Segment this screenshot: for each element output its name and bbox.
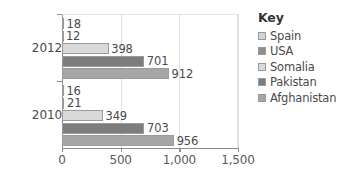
legend-title: Key <box>258 10 356 25</box>
legend-item-label: Spain <box>270 29 301 43</box>
x-axis-tick <box>62 148 63 152</box>
bar-value-label: 349 <box>105 111 127 122</box>
bar <box>62 110 103 121</box>
legend-swatch-icon <box>258 63 266 71</box>
x-axis-tick <box>238 148 239 152</box>
x-axis-tick-label: 0 <box>58 153 65 167</box>
x-axis-tick-label: 1,500 <box>221 153 254 167</box>
bar <box>62 123 144 134</box>
legend-swatch-icon <box>258 47 266 55</box>
bar <box>62 43 109 54</box>
x-axis-tick-label: 1,000 <box>163 153 196 167</box>
bar-value-label: 21 <box>67 98 81 109</box>
bar-value-label: 12 <box>66 31 80 42</box>
gridline <box>238 14 239 148</box>
bar-value-label: 703 <box>147 123 169 134</box>
bar-value-label: 912 <box>172 69 194 80</box>
bar <box>62 135 174 146</box>
y-axis-category-label: 2012 <box>32 41 62 55</box>
bar-value-label: 16 <box>66 86 80 97</box>
legend-item[interactable]: USA <box>258 45 356 58</box>
legend-item[interactable]: Spain <box>258 29 356 42</box>
bar-value-label: 18 <box>67 19 81 30</box>
legend-item[interactable]: Somalia <box>258 60 356 73</box>
legend-item-label: Afghanistan <box>270 91 336 105</box>
bar <box>62 18 64 29</box>
legend-item-label: Pakistan <box>270 75 317 89</box>
bar <box>62 98 64 109</box>
legend-swatch-icon <box>258 78 266 86</box>
bar-value-label: 956 <box>177 136 199 147</box>
legend-swatch-icon <box>258 32 266 40</box>
bar-chart: 18123987019121621349703956 20122010 0500… <box>0 0 358 186</box>
legend-swatch-icon <box>258 94 266 102</box>
bar-value-label: 398 <box>111 44 133 55</box>
y-axis-category-label: 2010 <box>32 108 62 122</box>
y-axis-group-tick <box>57 81 62 82</box>
x-axis-tick <box>179 148 180 152</box>
bar <box>62 68 169 79</box>
x-axis-line <box>62 148 239 149</box>
legend-item-label: Somalia <box>270 60 315 74</box>
legend-item[interactable]: Afghanistan <box>258 91 356 104</box>
x-axis-tick <box>121 148 122 152</box>
legend-item[interactable]: Pakistan <box>258 76 356 89</box>
bar <box>62 56 144 67</box>
x-axis-tick-label: 500 <box>110 153 132 167</box>
legend: Key SpainUSASomaliaPakistanAfghanistan <box>258 10 356 107</box>
bar <box>62 85 64 96</box>
legend-items: SpainUSASomaliaPakistanAfghanistan <box>258 29 356 104</box>
bar-value-label: 701 <box>147 56 169 67</box>
bar <box>62 31 64 42</box>
y-axis-group-tick <box>57 14 62 15</box>
gridline <box>179 14 180 148</box>
legend-item-label: USA <box>270 44 293 58</box>
